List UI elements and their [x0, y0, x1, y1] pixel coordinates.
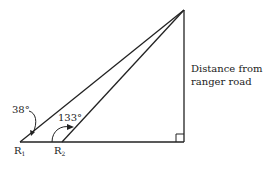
point-r1-subscript: 1: [22, 150, 26, 157]
angle-label-r1: 38°: [12, 104, 30, 116]
point-r2-subscript: 2: [62, 150, 66, 157]
right-angle-marker: [176, 134, 184, 142]
point-label-r2: R2: [54, 145, 65, 160]
side-label-line1: Distance from: [191, 63, 262, 75]
point-label-r1: R1: [14, 145, 25, 160]
angle-38-leader: [29, 111, 36, 133]
point-r1-letter: R: [14, 145, 22, 156]
point-r2-letter: R: [54, 145, 62, 156]
angle-label-r2: 133°: [58, 112, 82, 124]
angle-133-arrowhead: [67, 124, 74, 130]
sightline-r1: [20, 10, 184, 142]
side-label-line2: ranger road: [191, 76, 252, 88]
